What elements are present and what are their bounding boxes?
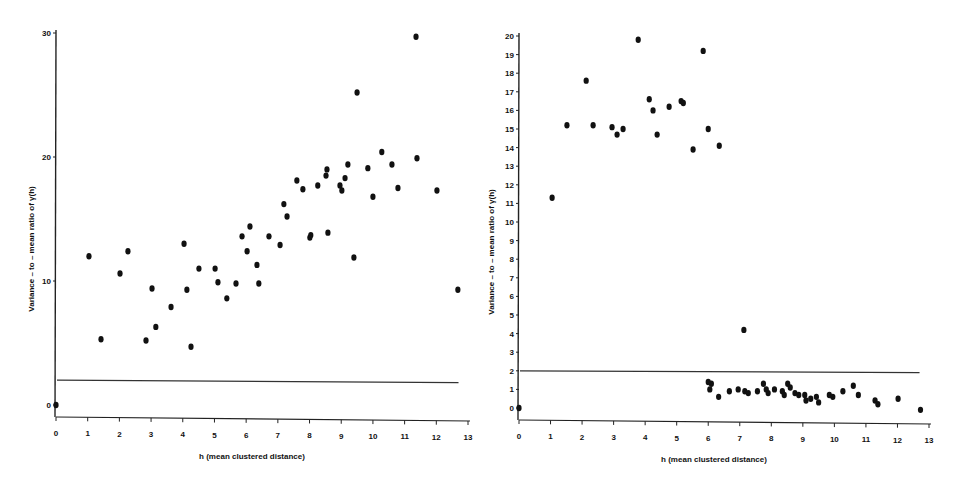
x-tick-label: 10 (830, 435, 839, 444)
data-point (816, 399, 821, 405)
y-tick-label: 0 (510, 404, 515, 413)
data-point (620, 126, 625, 132)
x-tick-label: 2 (117, 430, 122, 439)
x-tick-label: 10 (368, 432, 377, 441)
data-point (761, 381, 766, 387)
data-point (256, 280, 261, 286)
y-tick-label: 3 (510, 348, 515, 357)
data-point (614, 131, 619, 137)
data-point (803, 397, 808, 403)
data-point (746, 390, 751, 396)
data-point (727, 388, 732, 394)
x-tick-label: 12 (432, 433, 441, 442)
data-point (149, 285, 154, 291)
data-point (184, 286, 189, 292)
data-point (339, 187, 344, 193)
data-point (856, 392, 861, 398)
data-point (212, 265, 217, 271)
data-point (323, 172, 328, 178)
data-point (584, 77, 589, 83)
data-point (245, 248, 250, 254)
data-point (655, 131, 660, 137)
data-point (681, 100, 686, 106)
y-tick-label: 20 (42, 153, 51, 162)
data-point (741, 327, 746, 333)
data-point (315, 182, 320, 188)
y-tick-label: 9 (510, 237, 515, 246)
data-point (233, 280, 238, 286)
data-point (365, 165, 370, 171)
y-tick-label: 10 (42, 277, 51, 286)
data-point (181, 241, 186, 247)
y-tick-label: 19 (505, 51, 514, 60)
y-tick-label: 15 (505, 125, 514, 134)
data-point (325, 229, 330, 235)
data-point (706, 379, 711, 385)
data-point (788, 384, 793, 390)
data-point (701, 48, 706, 54)
data-point (342, 175, 347, 181)
y-axis-title: Variance – to – mean ratio of γ(h) (27, 186, 36, 312)
x-tick-label: 2 (580, 433, 585, 442)
data-point (636, 37, 641, 43)
data-point (716, 394, 721, 400)
y-tick-label: 20 (505, 32, 514, 41)
data-point (98, 336, 103, 342)
data-point (324, 166, 329, 172)
x-tick-label: 3 (149, 430, 154, 439)
data-point (188, 344, 193, 350)
x-tick-label: 11 (400, 432, 409, 441)
data-point (772, 386, 777, 392)
y-tick-label: 7 (510, 274, 515, 283)
y-tick-label: 14 (505, 144, 514, 153)
x-tick-label: 5 (674, 434, 679, 443)
data-point (254, 262, 259, 268)
x-axis-line (56, 417, 470, 421)
data-point (277, 242, 282, 248)
y-tick-label: 5 (510, 311, 515, 320)
x-tick-label: 6 (706, 434, 711, 443)
data-point (830, 394, 835, 400)
x-tick-label: 6 (244, 431, 249, 440)
x-axis-title: h (mean clustered distance) (199, 452, 305, 461)
x-tick-label: 0 (54, 429, 59, 438)
data-point (706, 126, 711, 132)
data-point (168, 304, 173, 310)
data-point (814, 394, 819, 400)
x-tick-label: 5 (212, 431, 217, 440)
data-point (550, 195, 555, 201)
x-tick-label: 13 (464, 433, 473, 442)
data-point (782, 392, 787, 398)
data-point (650, 107, 655, 113)
data-point (690, 146, 695, 152)
data-point (875, 401, 880, 407)
data-point (300, 186, 305, 192)
y-tick-label: 30 (42, 29, 51, 38)
y-tick-label: 6 (510, 292, 515, 301)
data-point (117, 270, 122, 276)
y-tick-label: 1 (510, 385, 515, 394)
x-axis-line (519, 420, 931, 424)
data-point (796, 392, 801, 398)
data-point (591, 122, 596, 128)
data-point (434, 187, 439, 193)
data-point (294, 177, 299, 183)
data-point (215, 279, 220, 285)
right-scatter-plot: 0123456789101112130123456789101112131415… (480, 0, 960, 492)
y-tick-label: 10 (505, 218, 514, 227)
y-tick-label: 8 (510, 255, 515, 264)
data-point (284, 213, 289, 219)
y-tick-label: 18 (505, 69, 514, 78)
y-axis-title: Variance – to – mean ratio of γ(h) (487, 189, 496, 315)
x-tick-label: 7 (738, 434, 743, 443)
data-point (736, 386, 741, 392)
x-tick-label: 4 (643, 433, 648, 442)
x-tick-label: 9 (339, 432, 344, 441)
y-tick-label: 12 (505, 181, 514, 190)
data-point (395, 185, 400, 191)
data-point (918, 407, 923, 413)
x-axis-title: h (mean clustered distance) (661, 455, 767, 464)
data-point (895, 396, 900, 402)
y-tick-label: 11 (506, 199, 515, 208)
data-point (281, 201, 286, 207)
